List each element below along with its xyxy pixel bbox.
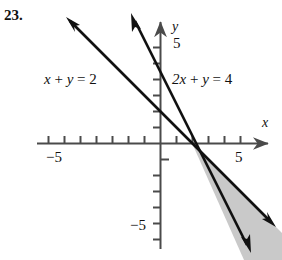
x-axis-ticks [49, 136, 241, 143]
y-tick-label-neg5: −5 [130, 218, 146, 233]
equation-label-line1: x + y = 2 [44, 72, 97, 87]
x-axis-label: x [262, 116, 268, 130]
eq1-term1: x [44, 71, 51, 87]
problem-number: 23. [4, 8, 23, 23]
x-tick-label-neg5: −5 [46, 150, 62, 165]
equation-label-line2: 2x + y = 4 [172, 72, 232, 87]
y-axis-label: y [172, 20, 178, 34]
eq1-term2: y [67, 71, 74, 87]
eq2-value: 4 [225, 71, 233, 87]
y-tick-label-pos5: 5 [173, 36, 181, 51]
graph-figure: 23. x + y = 2 2x + y = 4 x y −5 5 5 −5 [0, 0, 282, 260]
line-2x-plus-y-equals-4-draw [135, 21, 247, 245]
x-tick-label-pos5: 5 [235, 150, 243, 165]
line-x-plus-y-equals-2-draw [70, 21, 270, 221]
eq1-operator: + [54, 71, 62, 87]
eq1-equals: = [77, 71, 85, 87]
eq2-equals: = [213, 71, 221, 87]
eq2-operator: + [190, 71, 198, 87]
eq2-term1: 2x [172, 71, 186, 87]
eq2-term2: y [202, 71, 209, 87]
eq1-value: 2 [89, 71, 97, 87]
